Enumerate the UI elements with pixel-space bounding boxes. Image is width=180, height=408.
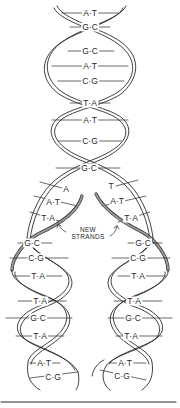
- right-daughter-base-pair: T·A: [126, 297, 142, 306]
- right-daughter-base-pair: G·C: [124, 314, 142, 323]
- new-strands-label-line1: NEW: [71, 226, 104, 233]
- parent-base-pair: G·C: [81, 47, 99, 56]
- new-strands-label: NEW STRANDS: [71, 226, 104, 240]
- left-daughter-base-pair: A·T: [36, 359, 52, 368]
- fork-base-pair: A·T: [45, 198, 61, 207]
- dna-replication-diagram: A·T G·C G·C A·T C·G T·A A·T C·G G·C A T …: [0, 0, 180, 408]
- left-daughter-base-pair: G·C: [29, 314, 47, 323]
- left-daughter-base-pair: T·A: [32, 332, 48, 341]
- left-daughter-base-pair: C·G: [44, 373, 62, 382]
- parent-base-pair: A·T: [82, 62, 98, 71]
- right-daughter-base-pair: G·C: [134, 239, 152, 248]
- parent-base-pair: G·C: [80, 164, 98, 173]
- fork-base: T: [107, 182, 114, 191]
- parent-base-pair: A·T: [82, 9, 98, 18]
- right-daughter-base-pair: T·A: [123, 332, 139, 341]
- parent-base-pair: C·G: [81, 77, 99, 86]
- left-daughter-base-pair: T·A: [32, 297, 48, 306]
- fork-base: A: [62, 185, 70, 194]
- right-daughter-base-pair: T·A: [130, 272, 146, 281]
- left-daughter-base-pair: T·A: [30, 272, 46, 281]
- new-strands-label-line2: STRANDS: [71, 233, 104, 240]
- fork-base-pair: T·A: [40, 214, 56, 223]
- left-daughter-base-pair: G·C: [23, 239, 41, 248]
- fork-base-pair: A·T: [109, 197, 125, 206]
- left-daughter-base-pair: C·G: [27, 254, 45, 263]
- right-daughter-base-pair: C·G: [129, 254, 147, 263]
- right-daughter-base-pair: A·T: [117, 359, 133, 368]
- fork-base-pair: T·A: [123, 214, 139, 223]
- right-daughter-base-pair: C·G: [113, 372, 131, 381]
- right-daughter-rungs: [100, 243, 172, 380]
- parent-base-pair: G·C: [81, 23, 99, 32]
- parent-base-pair: C·G: [81, 137, 99, 146]
- parent-base-pair: A·T: [82, 116, 98, 125]
- parent-base-pair: T·A: [82, 99, 98, 108]
